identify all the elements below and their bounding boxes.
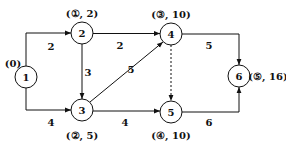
weight-4-6: 5	[206, 40, 213, 51]
node-6: 6	[228, 65, 250, 87]
network-diagram: 2 4 3 2 5 4 5 6 1 2 3 4	[0, 0, 286, 146]
edge-5-6	[182, 87, 239, 112]
node-2-mark: (①, 2)	[66, 8, 98, 20]
node-5-mark: (④, 10)	[151, 130, 190, 142]
node-2: 2	[71, 22, 93, 44]
node-3: 3	[71, 99, 93, 121]
weight-2-4: 2	[117, 40, 124, 51]
node-6-label: 6	[236, 71, 243, 82]
node-1-label: 1	[23, 72, 30, 83]
node-3-mark: (②, 5)	[66, 130, 98, 142]
node-4: 4	[160, 23, 182, 45]
node-4-label: 4	[168, 29, 175, 40]
weight-3-4: 5	[128, 64, 135, 75]
node-5: 5	[160, 101, 182, 123]
node-1-mark: (0)	[5, 58, 21, 69]
weight-5-6: 6	[206, 117, 213, 128]
edge-1-3	[26, 88, 71, 110]
node-1: 1	[15, 66, 37, 88]
node-2-label: 2	[79, 28, 86, 39]
weight-1-3: 4	[48, 117, 55, 128]
node-6-mark: (⑤, 16)	[248, 71, 286, 83]
node-3-label: 3	[79, 105, 86, 116]
weight-2-3: 3	[85, 67, 92, 78]
node-4-mark: (③, 10)	[151, 9, 190, 21]
weight-3-5: 4	[122, 117, 129, 128]
node-5-label: 5	[168, 107, 175, 118]
edge-3-4	[90, 42, 163, 102]
weight-1-2: 2	[48, 41, 55, 52]
